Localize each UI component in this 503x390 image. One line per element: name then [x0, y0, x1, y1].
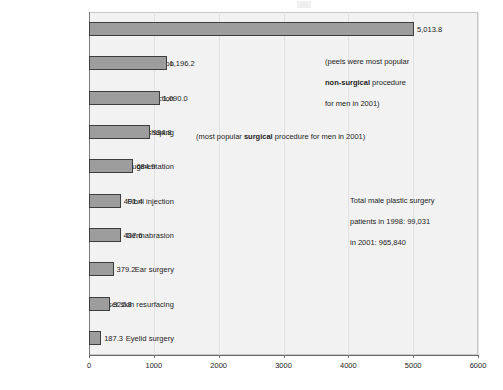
annotation-peels-line2-suffix: procedure: [370, 78, 406, 87]
bar-row: Ear surgery379.2: [89, 262, 478, 276]
category-label: Ear surgery: [0, 265, 174, 274]
bar-value-label: 1,090.0: [160, 94, 188, 103]
category-label: Laser skin resurfacing: [0, 300, 174, 309]
scan-artifact: [297, 1, 311, 8]
bar: [89, 228, 121, 242]
bar-value-label: 1,196.2: [167, 59, 195, 68]
bar: [89, 22, 414, 36]
annotation-peels-line2: non-surgical procedure: [325, 78, 470, 89]
x-axis-tick-label: 3000: [275, 361, 292, 370]
annotation-totals-line1: Total male plastic surgery: [350, 196, 490, 207]
bar-row: Laser skin resurfacing322.8: [89, 297, 478, 311]
bar-value-label: 187.3: [101, 334, 123, 343]
bar-value-label: 379.2: [114, 265, 136, 274]
x-axis-tick-label: 4000: [340, 361, 357, 370]
bar-row: Chemical peels5,013.8: [89, 22, 478, 36]
bar: [89, 91, 160, 105]
bar-value-label: 322.8: [110, 300, 132, 309]
category-label-wrap: Fibril injection: [0, 194, 174, 208]
x-axis-tick-label: 5000: [405, 361, 422, 370]
category-label-wrap: Laser skin resurfacing: [0, 297, 174, 311]
annotation-nose-suffix: procedure for men in 2001): [273, 132, 366, 141]
bar-value-label: 491.4: [121, 197, 143, 206]
bar: [89, 56, 167, 70]
bar-value-label: 684.9: [133, 162, 155, 171]
bar-row: Eyelid surgery187.3: [89, 331, 478, 345]
x-axis-tick-label: 2000: [210, 361, 227, 370]
bar-value-label: 5,013.8: [414, 25, 442, 34]
category-label-wrap: Eyelid surgery: [0, 331, 174, 345]
annotation-nose-note: (most popular surgical procedure for men…: [196, 132, 365, 141]
x-axis-tick-label: 0: [87, 361, 91, 370]
annotation-totals-line2: patients in 1998: 99,031: [350, 217, 490, 228]
bar-row: Chin augmentation684.9: [89, 159, 478, 173]
bar: [89, 159, 133, 173]
x-axis-line: [89, 355, 478, 356]
bar-value-label: 487.6: [121, 231, 143, 240]
annotation-nose-prefix: (most popular: [196, 132, 244, 141]
category-label-wrap: Ear surgery: [0, 262, 174, 276]
annotation-peels-line3: for men in 2001): [325, 99, 470, 110]
bar-value-label: 934.8: [150, 128, 172, 137]
category-label: Dermabrasion: [0, 231, 174, 240]
annotation-peels-line1: (peels were most popular: [325, 57, 470, 68]
annotation-nose-bold: surgical: [244, 132, 273, 141]
bar: [89, 125, 150, 139]
gridline: [478, 12, 479, 355]
bar-chart: 0100020003000400050006000 Chemical peels…: [0, 0, 503, 390]
x-axis-tick-label: 6000: [470, 361, 487, 370]
bar: [89, 331, 101, 345]
category-label-wrap: Dermabrasion: [0, 228, 174, 242]
category-label: Fibril injection: [0, 197, 174, 206]
bar: [89, 194, 121, 208]
annotation-peels-bold: non-surgical: [325, 78, 370, 87]
x-axis-tick: [478, 355, 479, 358]
annotation-totals-note: Total male plastic surgery patients in 1…: [350, 185, 490, 259]
bar: [89, 262, 114, 276]
annotation-peels-note: (peels were most popular non-surgical pr…: [325, 46, 470, 120]
category-label: Eyelid surgery: [0, 334, 174, 343]
annotation-totals-line3: in 2001: 965,840: [350, 238, 490, 249]
x-axis-tick-label: 1000: [145, 361, 162, 370]
bar: [89, 297, 110, 311]
